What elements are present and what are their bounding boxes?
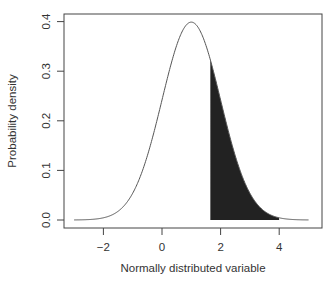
y-tick: 0.3 xyxy=(40,63,64,79)
y-axis-label: Probability density xyxy=(6,74,18,168)
density-chart: −2024 0.00.10.20.30.4 Normally distribut… xyxy=(0,0,333,286)
x-tick-label: 0 xyxy=(159,241,165,253)
x-tick: 2 xyxy=(217,228,223,253)
y-tick-label: 0.2 xyxy=(40,113,52,129)
y-tick-label: 0.1 xyxy=(40,162,52,178)
x-tick: 4 xyxy=(276,228,283,253)
y-tick: 0.1 xyxy=(40,162,64,178)
x-tick: 0 xyxy=(159,228,165,253)
y-tick: 0.2 xyxy=(40,113,64,129)
y-tick: 0.4 xyxy=(40,13,64,30)
y-tick-label: 0.0 xyxy=(40,212,52,228)
y-tick: 0.0 xyxy=(40,212,64,228)
x-tick-label: 4 xyxy=(276,241,283,253)
y-tick-label: 0.3 xyxy=(40,63,52,79)
x-tick: −2 xyxy=(97,228,110,253)
plot-frame xyxy=(64,14,322,228)
density-curve xyxy=(74,22,308,220)
x-axis: −2024 xyxy=(97,228,283,253)
x-tick-label: 2 xyxy=(217,241,223,253)
x-tick-label: −2 xyxy=(97,241,110,253)
shaded-tail-region xyxy=(210,60,279,220)
x-axis-label: Normally distributed variable xyxy=(120,262,265,274)
y-tick-label: 0.4 xyxy=(40,13,52,30)
y-axis: 0.00.10.20.30.4 xyxy=(40,13,64,228)
